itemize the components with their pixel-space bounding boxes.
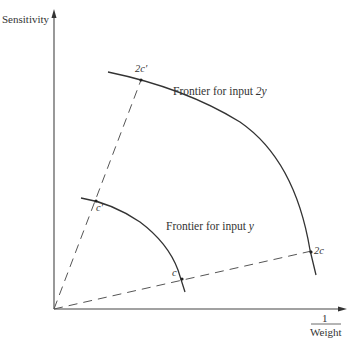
x-axis-label-denominator: Weight [310,327,342,338]
y-axis-arrow-icon [52,9,57,18]
frontier-input-2y-label-var: 2y [256,85,267,97]
frontier-input-2y-label-text: Frontier for input [173,85,256,97]
point-c-prime-label: c′ [96,203,103,214]
frontier-input-y-label-var: y [249,220,254,232]
point-c-marker [180,277,183,280]
point-c-label: c [172,268,177,279]
frontier-diagram: Sensitivity 1 Weight Frontier for input … [0,0,354,343]
frontier-input-2y-curve [108,72,316,275]
origin-to-c-ray [54,250,316,309]
point-2c-label: 2c [314,246,324,257]
y-axis-label: Sensitivity [2,14,49,25]
frontier-input-2y-label: Frontier for input 2y [173,86,267,98]
point-2c-prime-label: 2c′ [135,64,147,75]
point-2c-marker [309,250,312,253]
point-2c-prime-marker [139,78,142,81]
origin-to-c-prime-ray [54,80,141,309]
x-axis-label-numerator: 1 [322,313,328,324]
diagram-canvas [0,0,354,343]
frontier-input-y-label-text: Frontier for input [166,220,249,232]
x-axis-arrow-icon [338,307,347,312]
frontier-input-y-label: Frontier for input y [166,221,254,233]
